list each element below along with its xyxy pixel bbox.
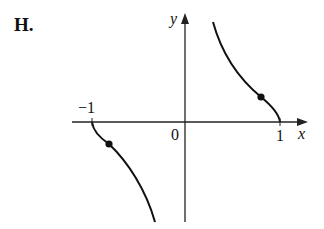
tick-label-neg: −1 xyxy=(78,99,95,117)
right-marked-point xyxy=(257,93,264,100)
right-branch-curve xyxy=(213,22,280,122)
left-marked-point xyxy=(105,140,112,147)
y-axis-label: y xyxy=(170,10,177,28)
graph xyxy=(0,0,324,229)
left-branch-curve xyxy=(92,122,155,222)
tick-label-pos: 1 xyxy=(276,127,284,145)
x-axis-label: x xyxy=(298,125,305,143)
y-axis-arrow-icon xyxy=(181,13,189,24)
origin-label: 0 xyxy=(171,126,179,144)
